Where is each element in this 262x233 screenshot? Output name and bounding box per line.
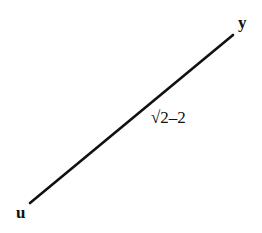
node-label-y: y: [238, 14, 247, 31]
edge-weight-label: √2–2: [151, 109, 186, 126]
node-label-u: u: [16, 204, 25, 221]
edge-line-svg: [0, 0, 262, 233]
edge-u-y: [30, 35, 233, 203]
diagram-canvas: u y √2–2: [0, 0, 262, 233]
